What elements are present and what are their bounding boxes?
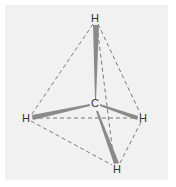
bond-c-h-bottom [96, 111, 119, 164]
atom-label-h-left: H [22, 112, 30, 124]
tetrahedron-diagram: C H H H H [0, 0, 176, 187]
tetrahedron-edges [30, 24, 141, 165]
edge-right-bottom [120, 122, 141, 163]
edge-top-right [98, 24, 141, 115]
atom-label-c: C [91, 97, 99, 109]
edge-left-bottom [31, 121, 112, 165]
atom-label-h-top: H [91, 12, 99, 24]
edge-top-bottom [97, 26, 114, 162]
atom-label-h-bottom: H [113, 163, 121, 175]
bond-c-h-top [93, 25, 99, 100]
edge-top-left [30, 24, 93, 117]
bonds [32, 25, 138, 164]
atom-label-h-right: H [139, 112, 147, 124]
